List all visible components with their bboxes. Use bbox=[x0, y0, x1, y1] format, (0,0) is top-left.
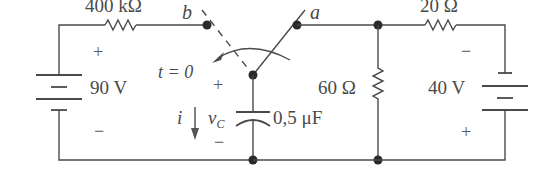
source-40v-minus: − bbox=[461, 42, 471, 60]
capacitor-minus: − bbox=[214, 133, 224, 151]
right-top-wire bbox=[297, 20, 505, 73]
resistor-400k-label: 400 kΩ bbox=[85, 0, 142, 15]
resistor-60-label: 60 Ω bbox=[318, 78, 356, 97]
source-90v-label: 90 V bbox=[90, 78, 127, 97]
resistor-20-label: 20 Ω bbox=[420, 0, 458, 15]
capacitor-voltage-label: vC bbox=[208, 108, 224, 130]
node-b bbox=[203, 21, 212, 30]
resistor-400k-icon bbox=[105, 20, 136, 30]
source-40v-plus: + bbox=[461, 123, 471, 141]
capacitor-icon bbox=[236, 75, 270, 165]
source-40v-label: 40 V bbox=[428, 78, 465, 97]
resistor-20-icon bbox=[425, 20, 456, 30]
capacitor-label: 0,5 μF bbox=[273, 108, 322, 127]
switch-time-label: t = 0 bbox=[158, 63, 193, 81]
capacitor-plus: + bbox=[213, 76, 223, 94]
switch-arrow-icon bbox=[212, 52, 224, 63]
resistor-60-icon bbox=[373, 25, 383, 165]
switch-icon bbox=[202, 10, 305, 80]
circuit-diagram bbox=[0, 0, 549, 187]
source-90v-minus: − bbox=[94, 122, 104, 140]
node-a-label: a bbox=[310, 2, 320, 22]
current-arrow-icon bbox=[191, 107, 199, 140]
current-label: i bbox=[177, 108, 182, 127]
node-b-label: b bbox=[182, 2, 192, 22]
source-90v-plus: + bbox=[93, 43, 103, 61]
